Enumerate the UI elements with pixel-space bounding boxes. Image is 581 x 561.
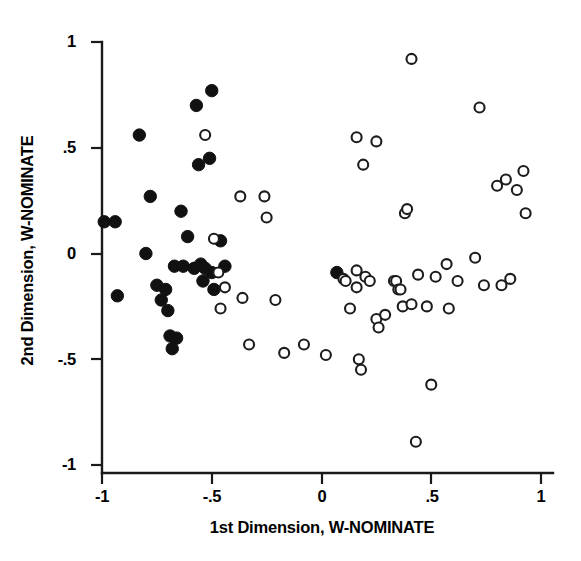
data-point — [501, 174, 511, 184]
data-point — [352, 282, 362, 292]
plot-canvas — [0, 0, 581, 561]
data-point — [407, 299, 417, 309]
data-point — [175, 205, 187, 217]
data-point — [262, 213, 272, 223]
data-point — [109, 216, 121, 228]
data-point — [475, 103, 485, 113]
data-point — [407, 54, 417, 64]
data-point — [237, 293, 247, 303]
data-point — [216, 303, 226, 313]
open-marker-group — [200, 54, 530, 447]
data-point — [453, 276, 463, 286]
data-point — [299, 339, 309, 349]
data-point — [431, 272, 441, 282]
data-point — [352, 132, 362, 142]
data-point — [470, 253, 480, 263]
data-point — [213, 268, 223, 278]
data-point — [259, 191, 269, 201]
data-point — [371, 136, 381, 146]
data-point — [442, 259, 452, 269]
data-point — [321, 350, 331, 360]
data-point — [518, 166, 528, 176]
data-point — [190, 99, 202, 111]
data-point — [133, 129, 145, 141]
data-point — [209, 234, 219, 244]
data-point — [235, 191, 245, 201]
data-point — [159, 283, 171, 295]
data-point — [200, 130, 210, 140]
data-point — [220, 282, 230, 292]
data-point — [512, 185, 522, 195]
y-axis-ticks — [91, 42, 102, 465]
data-point — [345, 303, 355, 313]
data-point — [208, 283, 220, 295]
scatter-plot-figure: 2nd Dimension, W-NOMINATE 1st Dimension,… — [0, 0, 581, 561]
data-point — [341, 276, 351, 286]
data-point — [396, 284, 406, 294]
data-point — [422, 301, 432, 311]
data-point — [374, 323, 384, 333]
data-point — [203, 152, 215, 164]
data-point — [192, 158, 204, 170]
data-point — [521, 208, 531, 218]
data-point — [402, 204, 412, 214]
data-point — [111, 290, 123, 302]
data-point — [505, 274, 515, 284]
data-point — [356, 365, 366, 375]
data-point — [426, 380, 436, 390]
data-point — [244, 339, 254, 349]
data-point — [206, 84, 218, 96]
data-point — [444, 303, 454, 313]
data-point — [270, 295, 280, 305]
data-point — [140, 247, 152, 259]
x-axis-ticks — [102, 473, 541, 484]
data-point — [279, 348, 289, 358]
data-point — [354, 354, 364, 364]
data-point — [358, 160, 368, 170]
data-point — [181, 230, 193, 242]
data-point — [380, 310, 390, 320]
data-point — [479, 280, 489, 290]
data-point — [170, 332, 182, 344]
data-point — [413, 270, 423, 280]
data-point — [144, 190, 156, 202]
data-point — [177, 260, 189, 272]
data-point — [162, 304, 174, 316]
data-point — [411, 437, 421, 447]
data-point — [365, 276, 375, 286]
